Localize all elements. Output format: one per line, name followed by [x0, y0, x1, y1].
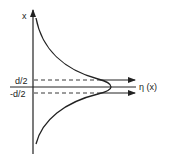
horizontal-axis-label: η (x)	[139, 82, 157, 92]
lower-tick-label: -d/2	[10, 89, 26, 99]
upper-tick-label: d/2	[15, 76, 28, 86]
vertical-axis-label: x	[22, 11, 27, 21]
profile-diagram: x d/2 -d/2 η (x)	[0, 0, 171, 160]
profile-curve	[36, 18, 111, 144]
